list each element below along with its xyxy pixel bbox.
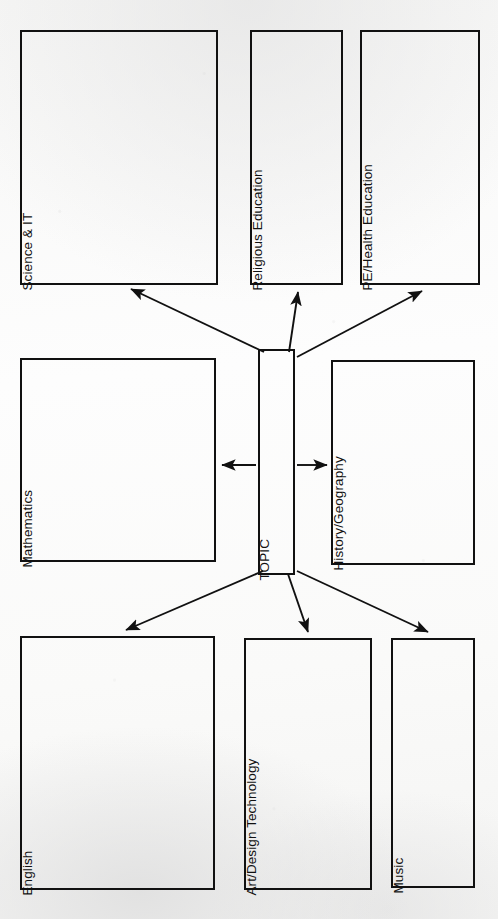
- subject-box-music[interactable]: Music: [391, 638, 475, 888]
- subject-label-music: Music: [392, 858, 406, 894]
- worksheet-page: Science & IT Religious Education PE/Heal…: [0, 0, 498, 919]
- subject-label-mathematics: Mathematics: [21, 490, 35, 568]
- subject-box-pe-health-education[interactable]: PE/Health Education: [360, 30, 480, 285]
- subject-label-religious-education: Religious Education: [251, 169, 265, 290]
- subject-label-english: English: [21, 851, 35, 896]
- subject-label-science-it: Science & IT: [21, 213, 35, 291]
- arrow-to-religious-education: [289, 292, 298, 352]
- subject-box-english[interactable]: English: [20, 636, 215, 890]
- subject-label-pe-health-education: PE/Health Education: [361, 164, 375, 290]
- subject-box-mathematics[interactable]: Mathematics: [20, 358, 216, 562]
- central-topic-box[interactable]: TOPIC: [258, 349, 295, 575]
- subject-label-history-geography: History/Geography: [332, 456, 346, 570]
- arrow-to-pe-health-education: [297, 291, 422, 357]
- central-topic-label: TOPIC: [258, 539, 272, 581]
- subject-label-art-design-technology: Art/Design Technology: [245, 759, 259, 896]
- subject-box-art-design-technology[interactable]: Art/Design Technology: [244, 638, 372, 890]
- subject-box-science-it[interactable]: Science & IT: [20, 30, 218, 285]
- arrow-to-art-design-technology: [288, 574, 308, 632]
- arrow-to-science-it: [131, 289, 264, 352]
- arrow-to-english: [126, 571, 263, 630]
- subject-box-history-geography[interactable]: History/Geography: [331, 360, 475, 565]
- subject-box-religious-education[interactable]: Religious Education: [250, 30, 343, 285]
- arrow-to-music: [297, 571, 428, 632]
